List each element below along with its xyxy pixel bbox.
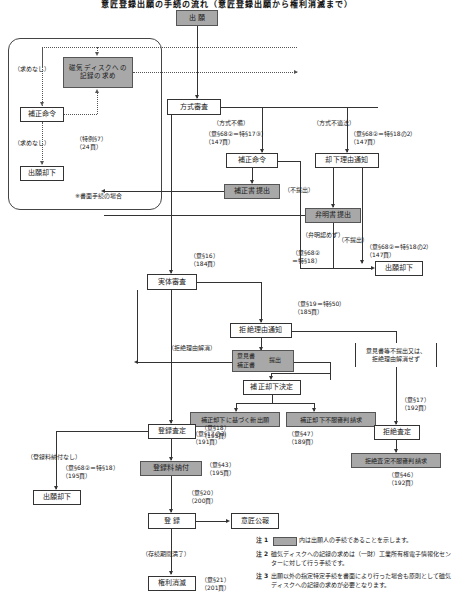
node-design-gazette-label: 意匠公報 [241, 517, 270, 525]
node-statement-submission[interactable]: 弁明書提出 [305, 208, 361, 223]
label-ref-68-2-18: （意§68② ＝特§18） [292, 249, 321, 264]
line-to-nonsubmission-bracket [396, 331, 397, 343]
node-amendment-submission[interactable]: 補正書提出 [224, 184, 280, 199]
line-statement-rejected-down [333, 223, 334, 268]
line-motomenashi-down [42, 47, 43, 106]
line-back-to-substantive-up [137, 290, 138, 362]
arrow-into-gazette [226, 519, 230, 523]
node-application-label: 出 願 [189, 14, 206, 22]
applicant-color-swatch [273, 537, 297, 546]
note-1: 注 1 内は出願人の手続であることを示します。 [256, 536, 452, 545]
node-formality-examination[interactable]: 方式審査 [167, 99, 221, 115]
label-written-procedure-case: ※書面手続の場合 [75, 192, 122, 200]
line-rejection-right [292, 331, 396, 332]
page-title: 意匠登録出願の手続の流れ（意匠登録出願から権利消滅まで） [0, 0, 454, 9]
node-application-dismissal-bottom-label: 出願却下 [43, 493, 72, 501]
line-fee-to-registration [171, 476, 172, 512]
node-amendment-dismissal-decision[interactable]: 補正却下決定 [243, 380, 301, 395]
label-ref-20: （意§20） （200頁） [188, 489, 217, 504]
line-bracket-down [396, 367, 397, 424]
node-magnetic-disk-request[interactable]: 磁気ディスクへの 記録の求め [63, 57, 133, 88]
line-statement-rejected-right [300, 268, 373, 269]
line-rejection-resolved-back [137, 362, 232, 363]
label-ref-46: （意§46） （192頁） [388, 471, 417, 486]
node-registration-decision-label: 登録査定 [158, 427, 187, 435]
node-substantive-examination-label: 実体審査 [158, 278, 187, 286]
line-nonsubmit-2-down [362, 168, 363, 263]
label-ref-17: （意§17） （192頁） [401, 396, 430, 411]
node-amendment-doc-label: 補正書 [237, 362, 256, 369]
node-magnetic-disk-request-label: 磁気ディスクへの 記録の求め [69, 65, 127, 80]
arrow-disk-to-main-flow [294, 70, 298, 74]
node-rejection-reason-notice-label: 拒絶理由通知 [239, 326, 282, 334]
label-formality-defect: （方式不備） [213, 119, 249, 127]
node-application-dismissal-bottom[interactable]: 出願却下 [33, 490, 81, 505]
note-1-text: 内は出願人の手続であることを示します。 [299, 536, 412, 545]
label-no-request-1: （求めなし） [14, 65, 50, 73]
line-formality-bus [221, 107, 378, 108]
node-amendment-dismissal-decision-label: 補正却下決定 [250, 383, 293, 391]
node-registration-decision[interactable]: 登録査定 [148, 424, 196, 439]
label-ref-18: （意§18） （195頁） [201, 424, 230, 439]
node-statement-submission-label: 弁明書提出 [315, 211, 351, 219]
node-application-dismissal-mid[interactable]: 出願却下 [375, 261, 423, 276]
label-formality-illegal: （方式不適法） [313, 119, 355, 127]
label-ref-68-2-17-3: （意§68②＝特§17③） （147頁） [205, 130, 267, 145]
node-design-gazette[interactable]: 意匠公報 [231, 513, 279, 529]
line-bus-to-rejection-reason [261, 282, 262, 322]
arrow-into-disk-bottom [95, 89, 99, 93]
line-application-to-formality [197, 26, 198, 98]
line-dismissal-reason-down [333, 168, 334, 207]
node-rejection-decision-label: 拒絶査定 [383, 428, 412, 436]
label-ref-16: （意§16） （184頁） [190, 252, 219, 267]
node-opinion-amendment-submission[interactable]: 意見書 補正書 提出 [232, 350, 294, 372]
label-ref-47: （意§47） （189頁） [288, 430, 317, 445]
node-application[interactable]: 出 願 [176, 10, 218, 26]
node-registration-fee-payment[interactable]: 登録料納付 [140, 461, 202, 476]
line-amend-dismissal-stub [271, 373, 272, 378]
node-application-dismissal-left-label: 出願却下 [28, 169, 57, 177]
node-registration[interactable]: 登 録 [148, 513, 196, 529]
label-ref-19-50: （意§19＝特§50） （185頁） [294, 300, 345, 315]
node-registration-label: 登 録 [164, 517, 181, 525]
line-disk-to-main [133, 72, 297, 73]
notes-section: 注 1 内は出願人の手続であることを示します。 注 2 磁気ディスクへの記録の求… [256, 536, 452, 595]
arrow-into-amend-order-left [40, 102, 44, 106]
bracket-no-opinion-label: 意見書等不提出又は、 拒絶理由解消せず [366, 347, 426, 363]
label-no-request-2: （求めなし） [14, 139, 50, 147]
label-special-rule-7: （特例§7） （24頁） [76, 135, 107, 150]
node-submission-label: 提出 [269, 357, 281, 364]
node-substantive-examination[interactable]: 実体審査 [147, 274, 197, 290]
line-amend-order-right [278, 161, 300, 162]
label-term-expiry: （存続期間満了） [142, 550, 190, 558]
line-statement-back [104, 215, 305, 216]
node-right-extinguishment-label: 権利消滅 [158, 579, 187, 587]
node-new-application-label: 補正却下に基づく新出願 [201, 416, 269, 423]
label-rejection-resolved: （拒絶理由解消） [168, 344, 216, 352]
note-2-text: 磁気ディスクへの記録の求めは（一財）工業所有権電子情報化センターに対して行う手続… [271, 550, 452, 567]
line-registration-to-gazette [196, 521, 228, 522]
note-1-marker: 注 1 [256, 536, 268, 545]
node-appeal-against-amendment-dismissal[interactable]: 補正却下不服審判請求 [286, 412, 376, 427]
arrow-into-dismissal-left [40, 161, 44, 165]
node-appeal-amend-label: 補正却下不服審判請求 [300, 416, 362, 423]
node-rejection-decision[interactable]: 拒絶査定 [374, 425, 420, 440]
node-right-extinguishment[interactable]: 権利消滅 [148, 576, 196, 591]
node-appeal-rejection-label: 拒絶査定不服審判請求 [365, 457, 427, 464]
note-3-marker: 注 3 [256, 572, 268, 581]
node-amendment-order[interactable]: 補正命令 [226, 153, 278, 168]
arrow-nonsubmit-2-to-dismissal [360, 260, 364, 264]
line-opinion-to-amend-dismissal [294, 362, 330, 363]
label-nonsubmission-1: （不提出） [284, 186, 314, 194]
node-appeal-against-rejection[interactable]: 拒絶査定不服審判請求 [351, 453, 441, 468]
note-3-text: 出願以外の指定特定手続を書面により行った場合も原則として磁気ディスクへの記録の求… [271, 572, 452, 589]
line-panel-top [42, 47, 297, 48]
label-ref-21: （意§21） （201頁） [201, 576, 230, 591]
node-rejection-reason-notice[interactable]: 拒絶理由通知 [230, 323, 292, 338]
node-amendment-order-left[interactable]: 補正命令 [20, 107, 64, 122]
node-dismissal-reason-notice-label: 却下理由通知 [325, 156, 368, 164]
line-amend-order-to-disk [64, 114, 97, 115]
node-application-dismissal-left[interactable]: 出願却下 [20, 166, 64, 181]
line-amend-dismissal-down [330, 362, 331, 380]
node-dismissal-reason-notice[interactable]: 却下理由通知 [315, 153, 379, 168]
